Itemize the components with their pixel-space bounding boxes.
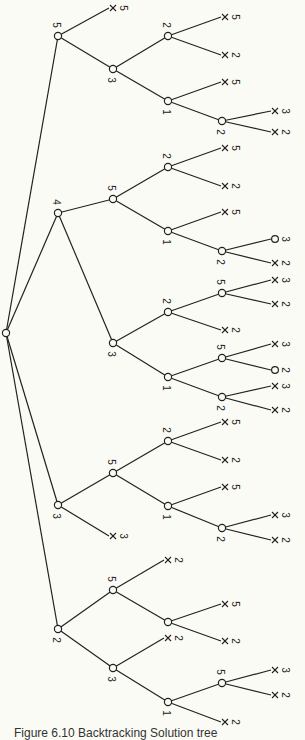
tree-edge xyxy=(168,683,222,702)
dead-end-leaf: 3 xyxy=(272,667,291,673)
leaf-edge xyxy=(58,505,109,536)
leaf-edge xyxy=(113,638,164,668)
node-circle-icon xyxy=(164,618,171,625)
dead-end-leaf: 3 xyxy=(272,108,291,114)
node-value-label: 5 xyxy=(106,185,117,191)
node-value-label: 4 xyxy=(51,199,62,205)
dead-end-leaf: 5 xyxy=(222,14,241,20)
node-value-label: 5 xyxy=(215,344,226,350)
node-circle-icon xyxy=(164,227,171,234)
leaf-edge xyxy=(222,251,271,263)
node-circle-icon xyxy=(164,32,171,39)
tree-node: 2 xyxy=(51,625,62,643)
node-circle-icon xyxy=(218,354,225,361)
node-circle-icon xyxy=(54,209,61,216)
node-value-label: 3 xyxy=(51,513,62,519)
dead-end-leaf: 2 xyxy=(272,260,291,266)
tree-node: 2 xyxy=(215,524,226,542)
leaf-value-label: 5 xyxy=(230,484,241,490)
node-circle-icon xyxy=(164,502,171,509)
leaf-edge xyxy=(168,167,221,186)
tree-edge xyxy=(6,213,58,333)
tree-edge xyxy=(113,36,168,69)
tree-node: 1 xyxy=(161,502,172,520)
leaf-value-label: 3 xyxy=(280,383,291,389)
node-value-label: 2 xyxy=(51,637,62,643)
tree-edge xyxy=(58,629,113,668)
tree-node: 3 xyxy=(51,501,62,519)
dead-end-leaf: 2 xyxy=(222,52,241,58)
leaf-value-label: 2 xyxy=(230,327,241,333)
tree-node: 5 xyxy=(215,669,226,686)
dead-end-leaf: 2 xyxy=(272,692,291,698)
node-circle-icon xyxy=(109,586,116,593)
solution-leaf: 2 xyxy=(272,367,291,374)
leaf-value-label: 2 xyxy=(280,537,291,543)
dead-end-leaf: 2 xyxy=(272,301,291,307)
node-value-label: 1 xyxy=(161,710,172,716)
node-circle-icon xyxy=(54,32,61,39)
dead-end-leaf: 2 xyxy=(222,457,241,463)
tree-edge xyxy=(58,473,113,505)
leaf-value-label: 5 xyxy=(230,419,241,425)
dead-end-leaf: 2 xyxy=(222,183,241,189)
tree-node: 1 xyxy=(161,698,172,716)
tree-node: 5 xyxy=(215,344,226,361)
leaf-edge xyxy=(222,280,271,293)
leaf-value-label: 2 xyxy=(280,129,291,135)
leaf-edge xyxy=(222,386,271,397)
tree-edge xyxy=(6,36,58,333)
dead-end-leaf: 5 xyxy=(222,145,241,151)
node-value-label: 1 xyxy=(161,109,172,115)
leaf-value-label: 2 xyxy=(280,367,291,373)
leaf-value-label: 5 xyxy=(230,601,241,607)
node-value-label: 5 xyxy=(215,279,226,285)
tree-node: 2 xyxy=(215,393,226,411)
o-mark-icon xyxy=(272,367,279,374)
leaf-edge xyxy=(168,36,221,55)
o-mark-icon xyxy=(272,236,279,243)
leaf-value-label: 3 xyxy=(118,533,129,539)
leaf-value-label: 2 xyxy=(230,183,241,189)
leaf-value-label: 2 xyxy=(280,301,291,307)
node-circle-icon xyxy=(164,698,171,705)
tree-node: 5 xyxy=(51,22,62,39)
leaf-value-label: 2 xyxy=(280,407,291,413)
node-value-label: 2 xyxy=(161,298,172,304)
dead-end-leaf: 2 xyxy=(222,327,241,333)
node-value-label: 2 xyxy=(215,129,226,135)
dead-end-leaf: 2 xyxy=(222,638,241,644)
tree-node: 2 xyxy=(161,427,172,444)
leaf-value-label: 2 xyxy=(173,557,184,563)
dead-end-leaf: 3 xyxy=(110,533,129,539)
leaf-edge xyxy=(168,487,221,506)
tree-edge xyxy=(113,590,168,622)
node-circle-icon xyxy=(164,308,171,315)
dead-end-leaf: 3 xyxy=(272,512,291,518)
leaf-edge xyxy=(222,358,271,370)
tree-edge xyxy=(113,473,168,506)
leaf-edge xyxy=(222,344,271,358)
tree-node: 2 xyxy=(215,117,226,135)
tree-node: 2 xyxy=(161,298,172,315)
dead-end-leaf: 2 xyxy=(222,719,241,725)
leaf-value-label: 2 xyxy=(173,635,184,641)
tree-edge xyxy=(168,293,222,312)
node-circle-icon xyxy=(164,373,171,380)
leaf-value-label: 3 xyxy=(280,108,291,114)
leaf-value-label: 2 xyxy=(230,457,241,463)
dead-end-leaf: 3 xyxy=(272,277,291,283)
leaf-value-label: 3 xyxy=(280,341,291,347)
node-circle-icon xyxy=(218,247,225,254)
node-value-label: 5 xyxy=(106,459,117,465)
leaf-edge xyxy=(168,604,221,622)
tree-edge xyxy=(58,213,113,343)
tree-nodes: 53212452123251523521225315 xyxy=(2,22,225,716)
leaf-edge xyxy=(222,528,271,540)
leaf-edge xyxy=(222,293,271,304)
tree-edge xyxy=(58,590,113,629)
leaf-value-label: 3 xyxy=(280,667,291,673)
leaf-value-label: 5 xyxy=(230,209,241,215)
node-circle-icon xyxy=(164,97,171,104)
leaf-value-label: 2 xyxy=(230,638,241,644)
